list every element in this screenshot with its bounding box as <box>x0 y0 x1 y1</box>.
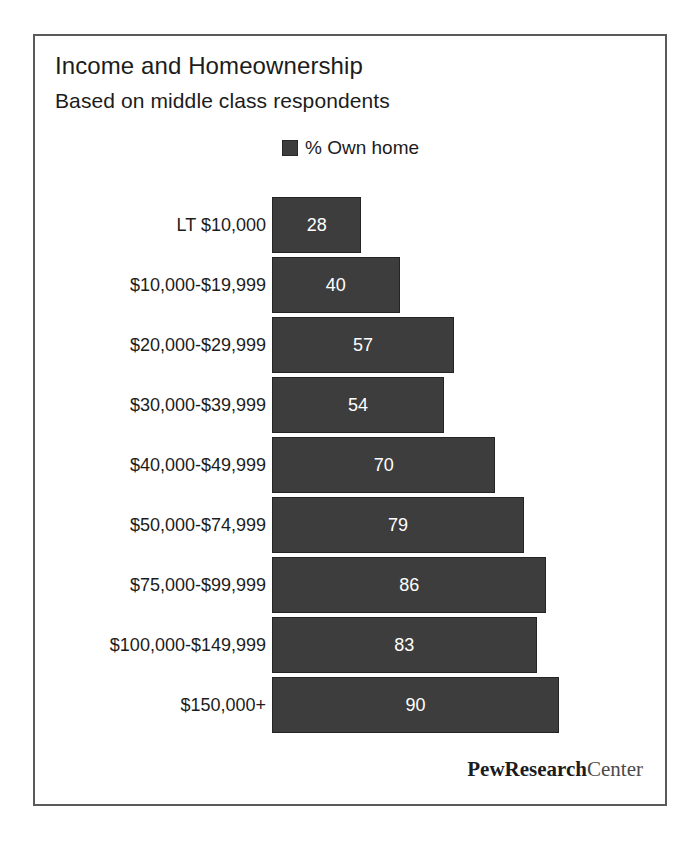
pew-research-center-logo: PewResearchCenter <box>467 757 643 782</box>
bar-track: 86 <box>272 557 546 613</box>
bar-chart-plot-area: LT $10,00028$10,000-$19,99940$20,000-$29… <box>35 197 665 742</box>
chart-subtitle: Based on middle class respondents <box>55 89 390 113</box>
bar-fill: 28 <box>272 197 361 253</box>
bar-fill: 90 <box>272 677 559 733</box>
bar-fill: 70 <box>272 437 495 493</box>
bar-row: $30,000-$39,99954 <box>35 377 665 433</box>
bar-category-label: $100,000-$149,999 <box>110 617 266 673</box>
bar-category-label: $30,000-$39,999 <box>130 377 266 433</box>
legend-label: % Own home <box>305 137 419 159</box>
bar-fill: 79 <box>272 497 524 553</box>
bar-value-label: 70 <box>374 455 394 476</box>
bar-row: $50,000-$74,99979 <box>35 497 665 553</box>
bar-fill: 57 <box>272 317 454 373</box>
bar-value-label: 57 <box>353 335 373 356</box>
bar-value-label: 83 <box>394 635 414 656</box>
bar-fill: 83 <box>272 617 537 673</box>
bar-row: $10,000-$19,99940 <box>35 257 665 313</box>
bar-track: 79 <box>272 497 524 553</box>
brand-secondary: Center <box>587 757 643 781</box>
bar-category-label: $150,000+ <box>180 677 266 733</box>
bar-value-label: 86 <box>399 575 419 596</box>
bar-row: LT $10,00028 <box>35 197 665 253</box>
bar-value-label: 40 <box>326 275 346 296</box>
bar-row: $100,000-$149,99983 <box>35 617 665 673</box>
bar-fill: 40 <box>272 257 400 313</box>
bar-track: 28 <box>272 197 361 253</box>
bar-row: $40,000-$49,99970 <box>35 437 665 493</box>
bar-value-label: 90 <box>406 695 426 716</box>
bar-value-label: 54 <box>348 395 368 416</box>
bar-track: 57 <box>272 317 454 373</box>
bar-track: 83 <box>272 617 537 673</box>
chart-title: Income and Homeownership <box>55 52 363 80</box>
bar-fill: 54 <box>272 377 444 433</box>
chart-frame: Income and Homeownership Based on middle… <box>33 34 667 806</box>
bar-track: 40 <box>272 257 400 313</box>
bar-category-label: $50,000-$74,999 <box>130 497 266 553</box>
bar-track: 70 <box>272 437 495 493</box>
bar-category-label: $75,000-$99,999 <box>130 557 266 613</box>
bar-category-label: $20,000-$29,999 <box>130 317 266 373</box>
bar-category-label: $10,000-$19,999 <box>130 257 266 313</box>
bar-row: $20,000-$29,99957 <box>35 317 665 373</box>
bar-row: $75,000-$99,99986 <box>35 557 665 613</box>
brand-primary: PewResearch <box>467 757 587 781</box>
legend-swatch-icon <box>282 140 298 156</box>
bar-fill: 86 <box>272 557 546 613</box>
bar-value-label: 79 <box>388 515 408 536</box>
chart-legend: % Own home <box>282 137 419 159</box>
bar-value-label: 28 <box>307 215 327 236</box>
bar-category-label: LT $10,000 <box>177 197 266 253</box>
bar-row: $150,000+90 <box>35 677 665 733</box>
bar-category-label: $40,000-$49,999 <box>130 437 266 493</box>
bar-track: 90 <box>272 677 559 733</box>
bar-track: 54 <box>272 377 444 433</box>
